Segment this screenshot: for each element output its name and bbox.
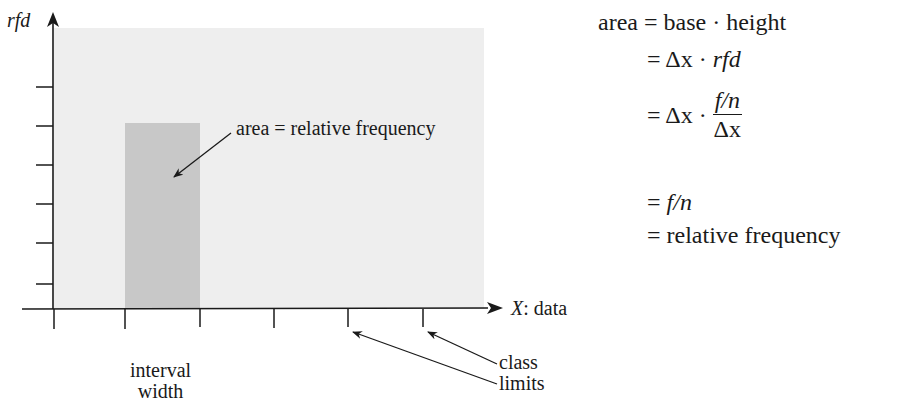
histogram-bar (125, 123, 200, 309)
class-label-line1: class (499, 352, 545, 373)
class-limits-label: class limits (499, 352, 545, 394)
x-axis (22, 308, 488, 309)
fraction-numerator: f/n (713, 88, 742, 115)
formula-line2-rfd: rfd (713, 46, 741, 72)
x-axis-arrow-icon (487, 302, 503, 314)
class-label-line2: limits (499, 373, 545, 394)
formula-line2-text: = Δx · (647, 46, 713, 72)
fraction: f/n Δx (713, 88, 742, 141)
interval-label-line2: width (130, 381, 191, 402)
formula-line5-text: = relative frequency (647, 222, 840, 248)
x-axis-label: X: data (511, 298, 567, 318)
area-annotation: area = relative frequency (236, 118, 435, 138)
formula-line4-eq: = (647, 189, 667, 215)
y-ticks (36, 87, 53, 284)
formula-lhs: area (598, 9, 638, 35)
formula-line3-prefix: = Δx · (647, 102, 713, 128)
formula-line4-fn: f/n (667, 189, 692, 215)
formula-line-1: area = base · height (598, 10, 786, 34)
formula-line-5: = relative frequency (647, 223, 840, 247)
histogram-diagram (0, 0, 907, 413)
formula-line-3: = Δx · f/n Δx (647, 88, 742, 141)
x-axis-label-rest: : data (523, 297, 567, 319)
plot-panel (54, 28, 484, 309)
class-limit-arrow-1 (353, 332, 497, 384)
x-ticks (54, 309, 423, 329)
x-axis-label-var: X (511, 297, 523, 319)
interval-width-label: interval width (130, 360, 191, 402)
class-limit-arrow-2 (428, 332, 497, 364)
y-axis-label: rfd (7, 10, 30, 30)
formula-line1-rhs: = base · height (644, 9, 786, 35)
interval-label-line1: interval (130, 360, 191, 381)
fraction-denominator: Δx (713, 115, 742, 141)
formula-line-4: = f/n (647, 190, 692, 214)
formula-line-2: = Δx · rfd (647, 47, 741, 71)
